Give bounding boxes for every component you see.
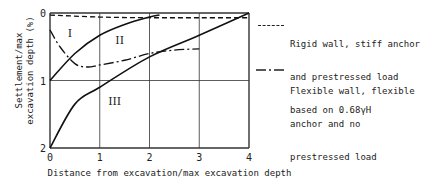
- region-label-ii: II: [115, 34, 124, 47]
- plot-area: 01234012IIIIIIDistance from excavation/m…: [14, 8, 291, 178]
- x-axis-label: Distance from excavation/max excavation …: [48, 168, 292, 178]
- region-label-i: I: [68, 27, 72, 40]
- legend-dashed-swatch: [258, 25, 284, 26]
- boundary-curve: [50, 15, 159, 80]
- x-tick-label: 1: [97, 152, 103, 163]
- x-tick-label: 2: [146, 152, 152, 163]
- x-tick-label: 3: [196, 152, 202, 163]
- y-axis-label-line1: Settlement/max: [14, 32, 24, 108]
- flexible-wall-series: [50, 30, 199, 67]
- y-tick-label: 0: [40, 8, 46, 19]
- legend-dashdot-swatch: [256, 68, 286, 72]
- y-axis-label-line2: excavation depth (%): [25, 16, 35, 124]
- legend-flexible-wall: Flexible wall, flexible anchor and no pr…: [290, 64, 415, 174]
- y-tick-label: 1: [40, 76, 46, 87]
- x-tick-label: 4: [246, 152, 252, 163]
- x-tick-label: 0: [47, 152, 53, 163]
- region-label-iii: III: [108, 95, 121, 108]
- y-tick-label: 2: [40, 143, 46, 154]
